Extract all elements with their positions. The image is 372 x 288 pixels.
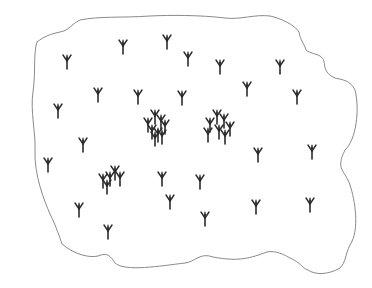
tree-icon [104, 225, 112, 239]
tree-icon [306, 198, 314, 212]
tree-icon [103, 180, 111, 194]
tree-icon [201, 212, 209, 226]
tree-icon [293, 90, 301, 104]
lower-left-cluster [99, 166, 124, 194]
tree-icon [221, 130, 229, 144]
plant-symbols-layer [44, 35, 316, 239]
tree-icon [308, 145, 316, 159]
center-left-cluster [144, 110, 169, 146]
tree-icon [79, 138, 87, 152]
tree-icon [163, 35, 171, 49]
plant-distribution-diagram [0, 0, 372, 288]
tree-icon [94, 88, 102, 102]
tree-icon [252, 200, 260, 214]
center-right-cluster [204, 110, 234, 144]
tree-icon [213, 110, 221, 124]
tree-icon [216, 60, 224, 74]
tree-icon [119, 40, 127, 54]
tree-icon [220, 114, 228, 128]
tree-icon [204, 128, 212, 142]
tree-icon [158, 172, 166, 186]
tree-icon [54, 104, 62, 118]
tree-icon [243, 82, 251, 96]
tree-icon [276, 60, 284, 74]
diagram-canvas [0, 0, 372, 288]
tree-icon [157, 115, 165, 129]
tree-icon [111, 166, 119, 180]
tree-icon [178, 91, 186, 105]
tree-icon [134, 90, 142, 104]
tree-icon [254, 148, 262, 162]
tree-icon [166, 195, 174, 209]
tree-icon [116, 172, 124, 186]
tree-icon [184, 52, 192, 66]
tree-icon [44, 158, 52, 172]
tree-icon [196, 175, 204, 189]
tree-icon [63, 55, 71, 69]
tree-icon [75, 203, 83, 217]
